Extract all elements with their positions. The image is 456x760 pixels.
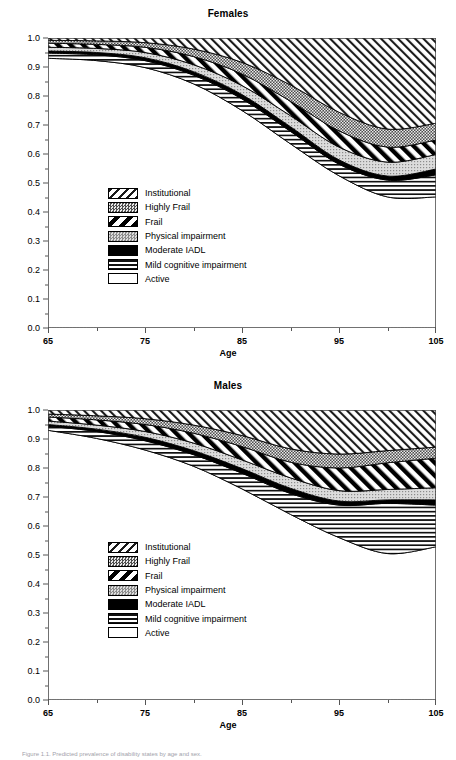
panel-title-females: Females [0,8,456,19]
legend-label: Frail [145,571,163,581]
x-axis-label-females: Age [0,348,456,358]
legend-swatch-light-stipple [108,231,138,242]
x-axis-tick-mark [145,328,146,333]
x-axis-tick-mark [435,328,436,333]
legend-swatch-solid-black [108,245,138,256]
legend-swatch-solid-black [108,599,138,610]
x-axis-tick-label: 95 [334,709,344,718]
legend-label: Physical impairment [145,585,226,595]
legend-item: Mild cognitive impairment [108,611,247,625]
legend-swatch-horizontal-lines [108,259,138,270]
legend-item: Active [108,626,247,640]
legend-label: Mild cognitive impairment [145,260,247,270]
y-axis-tick-label: 0.3 [27,237,40,246]
legend-males: InstitutionalHighly FrailFrailPhysical i… [108,540,247,640]
legend-item: Highly Frail [108,200,247,214]
x-axis-tick-label: 105 [428,709,443,718]
legend-item: Institutional [108,186,247,200]
y-axis-tick-label: 0.3 [27,609,40,618]
x-axis-label-males: Age [0,720,456,730]
legend-swatch-bold-diagonal-stripes [108,216,138,227]
legend-label: Institutional [145,188,191,198]
x-axis-tick-label: 65 [43,337,53,346]
legend-item: Moderate IADL [108,243,247,257]
y-axis-tick-label: 0.1 [27,667,40,676]
x-axis-minor-tick [388,700,389,703]
legend-item: Institutional [108,540,247,554]
y-axis-tick-label: 0.5 [27,179,40,188]
x-axis-tick-label: 85 [237,337,247,346]
legend-item: Physical impairment [108,229,247,243]
legend-label: Physical impairment [145,231,226,241]
x-axis-minor-tick [97,700,98,703]
legend-swatch-white [108,627,138,638]
y-axis-tick-label: 0.7 [27,121,40,130]
y-axis-tick-label: 0.2 [27,638,40,647]
legend-item: Mild cognitive impairment [108,257,247,271]
legend-item: Physical impairment [108,583,247,597]
y-axis-tick-label: 0.2 [27,266,40,275]
x-axis-tick-mark [435,700,436,705]
y-axis-tick-label: 1.0 [27,406,40,415]
legend-swatch-dark-stipple [108,556,138,567]
x-axis-tick-mark [48,700,49,705]
legend-label: Moderate IADL [145,245,206,255]
x-axis-tick-label: 95 [334,337,344,346]
x-axis-minor-tick [291,700,292,703]
legend-item: Frail [108,569,247,583]
panel-females: Females 0.00.10.20.30.40.50.60.70.80.91.… [0,0,456,375]
x-axis-minor-tick [194,328,195,331]
y-axis-males: 0.00.10.20.30.40.50.60.70.80.91.0 [0,410,48,702]
legend-label: Highly Frail [145,202,190,212]
legend-item: Moderate IADL [108,597,247,611]
figure-caption: Figure 1.1. Predicted prevalence of disa… [22,750,442,758]
x-axis-tick-mark [339,700,340,705]
y-axis-tick-label: 0.8 [27,464,40,473]
legend-swatch-bold-diagonal-stripes [108,570,138,581]
x-axis-tick-mark [145,700,146,705]
y-axis-tick-label: 0.1 [27,295,40,304]
legend-swatch-horizontal-lines [108,613,138,624]
legend-label: Active [145,274,170,284]
x-axis-tick-mark [48,328,49,333]
y-axis-tick-label: 0.9 [27,63,40,72]
y-axis-tick-label: 0.0 [27,324,40,333]
y-axis-tick-label: 0.4 [27,580,40,589]
legend-label: Active [145,628,170,638]
y-axis-tick-label: 0.8 [27,92,40,101]
legend-item: Frail [108,215,247,229]
legend-label: Highly Frail [145,556,190,566]
legend-label: Moderate IADL [145,599,206,609]
legend-females: InstitutionalHighly FrailFrailPhysical i… [108,186,247,286]
x-axis-tick-mark [339,328,340,333]
x-axis-tick-label: 75 [140,709,150,718]
x-axis-tick-label: 75 [140,337,150,346]
x-axis-minor-tick [97,328,98,331]
legend-label: Frail [145,217,163,227]
legend-swatch-diagonal-hatch-light [108,188,138,199]
y-axis-tick-label: 0.7 [27,493,40,502]
legend-swatch-white [108,273,138,284]
y-axis-tick-label: 0.6 [27,150,40,159]
legend-label: Institutional [145,542,191,552]
y-axis-tick-label: 1.0 [27,34,40,43]
figure-page: Females 0.00.10.20.30.40.50.60.70.80.91.… [0,0,456,760]
x-axis-tick-label: 65 [43,709,53,718]
y-axis-tick-label: 0.0 [27,696,40,705]
x-axis-tick-mark [242,700,243,705]
panel-males: Males 0.00.10.20.30.40.50.60.70.80.91.0 … [0,372,456,747]
legend-swatch-light-stipple [108,585,138,596]
legend-label: Mild cognitive impairment [145,614,247,624]
y-axis-females: 0.00.10.20.30.40.50.60.70.80.91.0 [0,38,48,330]
x-axis-minor-tick [291,328,292,331]
legend-item: Highly Frail [108,554,247,568]
y-axis-tick-label: 0.6 [27,522,40,531]
x-axis-tick-label: 105 [428,337,443,346]
x-axis-tick-mark [242,328,243,333]
y-axis-tick-label: 0.5 [27,551,40,560]
legend-swatch-diagonal-hatch-light [108,542,138,553]
x-axis-minor-tick [194,700,195,703]
y-axis-tick-label: 0.9 [27,435,40,444]
legend-swatch-dark-stipple [108,202,138,213]
legend-item: Active [108,272,247,286]
